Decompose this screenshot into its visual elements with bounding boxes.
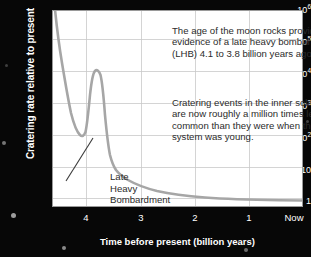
x-tick-4: 4: [83, 212, 88, 223]
x-axis-title: Time before present (billion years): [52, 236, 303, 247]
x-tick-now: Now: [284, 212, 303, 223]
star-decoration: [11, 213, 16, 218]
plot-area: The age of the moon rocks provide eviden…: [52, 10, 303, 207]
star-decoration: [5, 64, 8, 67]
cratering-events-note: Cratering events in the inner solar syst…: [172, 97, 311, 143]
lhb-callout-label: Late Heavy Bombardment: [110, 171, 170, 206]
y-axis-title: Cratering rate relative to present: [25, 0, 36, 177]
x-tick-3: 3: [138, 212, 143, 223]
x-tick-1: 1: [246, 212, 251, 223]
figure-canvas: Cratering rate relative to present 106 1…: [0, 0, 311, 257]
star-decoration: [244, 248, 248, 252]
lhb-leader-line: [66, 138, 93, 181]
x-tick-2: 2: [192, 212, 197, 223]
star-decoration: [2, 141, 6, 145]
moon-rocks-note: The age of the moon rocks provide eviden…: [172, 25, 311, 59]
